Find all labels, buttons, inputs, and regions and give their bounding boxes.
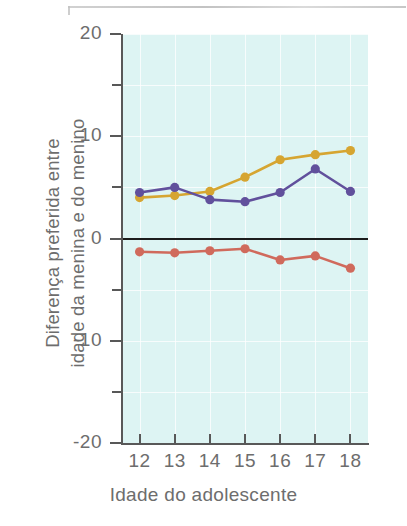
y-axis-title: Diferença preferida entre idade da menin…: [40, 93, 90, 393]
scan-artifact-line: [68, 6, 406, 8]
y-axis-minor-tick: [112, 84, 121, 86]
plot-area: [122, 34, 368, 443]
data-point: [276, 255, 285, 264]
y-axis-title-line2: idade da menina e do menino: [65, 93, 90, 393]
y-axis-minor-tick: [112, 186, 121, 188]
x-tick-label: 15: [225, 450, 265, 472]
y-axis-line: [121, 34, 123, 444]
y-axis-tick: [110, 340, 121, 342]
data-point: [135, 247, 144, 256]
data-point: [311, 150, 320, 159]
x-tick-label: 13: [155, 450, 195, 472]
data-point: [205, 246, 214, 255]
data-point: [205, 195, 214, 204]
x-axis-tick: [209, 434, 211, 443]
data-point: [311, 251, 320, 260]
data-point: [170, 183, 179, 192]
y-axis-tick: [110, 135, 121, 137]
x-tick-label: 12: [120, 450, 160, 472]
y-tick-label: -20: [56, 431, 102, 453]
data-point: [311, 164, 320, 173]
x-tick-label: 17: [295, 450, 335, 472]
chart-page: 20100-10-20 12131415161718 Idade do adol…: [0, 0, 407, 526]
data-point: [135, 188, 144, 197]
x-tick-label: 14: [190, 450, 230, 472]
data-point: [346, 264, 355, 273]
data-point: [240, 173, 249, 182]
data-point: [240, 244, 249, 253]
zero-reference-line: [122, 238, 368, 240]
x-axis-tick: [139, 434, 141, 443]
data-point: [240, 197, 249, 206]
y-axis-tick: [110, 238, 121, 240]
x-axis-tick: [279, 434, 281, 443]
data-point: [346, 187, 355, 196]
y-axis-title-line1: Diferença preferida entre: [40, 93, 65, 393]
data-point: [205, 187, 214, 196]
y-axis-tick: [110, 442, 121, 444]
data-point: [170, 248, 179, 257]
y-tick-label: 20: [56, 22, 102, 44]
x-tick-label: 18: [330, 450, 370, 472]
y-axis-minor-tick: [112, 289, 121, 291]
y-axis-tick: [110, 33, 121, 35]
y-axis-minor-tick: [112, 391, 121, 393]
x-axis-title: Idade do adolescente: [0, 484, 407, 506]
x-axis-tick: [244, 434, 246, 443]
data-point: [346, 146, 355, 155]
data-point: [170, 191, 179, 200]
x-axis-line: [121, 443, 369, 445]
x-axis-tick: [174, 434, 176, 443]
data-point: [276, 188, 285, 197]
x-axis-tick: [349, 434, 351, 443]
x-tick-label: 16: [260, 450, 300, 472]
scan-artifact-tick: [68, 6, 70, 15]
x-axis-tick: [314, 434, 316, 443]
data-point: [276, 155, 285, 164]
